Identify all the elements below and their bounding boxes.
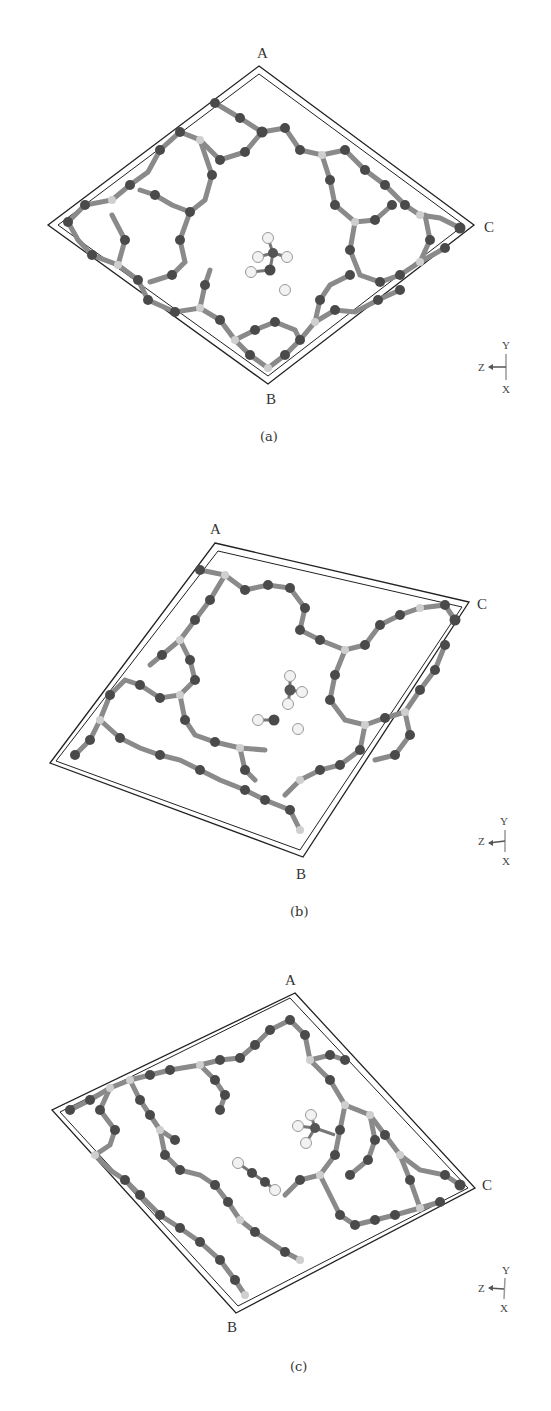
axis-arrows-icon — [478, 1265, 518, 1321]
panel-caption-b: (b) — [290, 905, 308, 918]
corner-label-right: C — [484, 220, 494, 235]
corner-label-bottom: B — [227, 1320, 237, 1335]
panel-b: A C B Y Z X (b) — [0, 480, 551, 960]
corner-label-top: A — [285, 973, 296, 988]
axis-triad-b: Y Z X — [478, 816, 518, 872]
corner-label-bottom: B — [266, 392, 276, 407]
corner-label-top: A — [257, 46, 268, 61]
corner-label-right: C — [477, 597, 487, 612]
axis-triad-a: Y Z X — [478, 340, 518, 396]
corner-label-bottom: B — [296, 867, 306, 882]
zeolite-framework-diagram-b — [0, 480, 551, 960]
panel-a: A C B Y Z X (a) — [0, 0, 551, 470]
axis-triad-c: Y Z X — [478, 1265, 518, 1321]
corner-label-right: C — [482, 1178, 492, 1193]
axis-arrows-icon — [478, 340, 518, 396]
adsorbate-molecule-c — [233, 1110, 336, 1196]
zeolite-framework-diagram-c — [0, 970, 551, 1411]
panel-caption-a: (a) — [260, 430, 278, 443]
panel-caption-c: (c) — [290, 1360, 307, 1373]
axis-arrows-icon — [478, 816, 518, 872]
adsorbate-molecule-a — [246, 233, 293, 296]
corner-label-top: A — [210, 522, 221, 537]
panel-c: A C B Y Z X (c) — [0, 970, 551, 1411]
adsorbate-molecule-b — [253, 671, 308, 735]
